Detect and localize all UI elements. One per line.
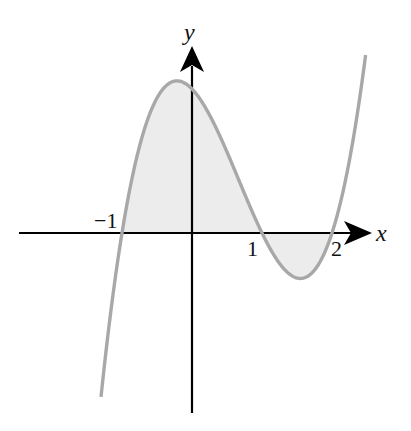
x-axis-label: x bbox=[375, 220, 387, 246]
tick-label-1: 1 bbox=[247, 236, 258, 261]
y-axis-label: y bbox=[182, 19, 195, 45]
tick-label-2: 2 bbox=[331, 236, 342, 261]
cubic-graph: y x −1 1 2 bbox=[0, 0, 411, 431]
shaded-area bbox=[122, 81, 332, 279]
tick-label-neg1: −1 bbox=[94, 208, 117, 233]
